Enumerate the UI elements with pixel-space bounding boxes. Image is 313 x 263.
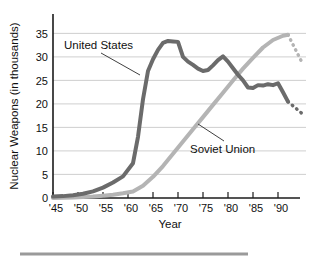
gridlines bbox=[53, 33, 306, 174]
xtick-label-1975: '75 bbox=[199, 202, 213, 214]
ytick-label-10: 10 bbox=[36, 145, 48, 157]
united-states-line bbox=[53, 41, 288, 197]
xtick-label-1950: '50 bbox=[74, 202, 88, 214]
ytick-label-35: 35 bbox=[36, 28, 48, 40]
xtick-label-1990: '90 bbox=[274, 202, 288, 214]
xtick-label-1960: '60 bbox=[124, 202, 138, 214]
xtick-label-1970: '70 bbox=[174, 202, 188, 214]
ytick-label-15: 15 bbox=[36, 122, 48, 134]
series-united-states bbox=[53, 41, 303, 197]
ytick-label-25: 25 bbox=[36, 75, 48, 87]
ytick-label-5: 5 bbox=[42, 169, 48, 181]
ytick-label-20: 20 bbox=[36, 98, 48, 110]
soviet-union-dotted-extension bbox=[288, 35, 303, 65]
united-states-label: United States bbox=[64, 39, 133, 51]
annotation-soviet-union: Soviet Union bbox=[190, 124, 255, 155]
xtick-label-1945: '45 bbox=[49, 202, 63, 214]
series-soviet-union bbox=[53, 35, 303, 198]
ytick-label-0: 0 bbox=[42, 192, 48, 204]
y-axis-tick-labels: 35 30 25 20 15 10 5 0 bbox=[36, 28, 48, 205]
soviet-union-line bbox=[53, 35, 288, 198]
nuclear-weapons-line-chart: 35 30 25 20 15 10 5 0 '45 '50 '55 '60 '6… bbox=[0, 0, 313, 263]
y-axis-title: Nuclear Weapons (in thousands) bbox=[8, 22, 20, 189]
x-axis-tick-labels: '45 '50 '55 '60 '65 '70 '75 '80 '85 '90 bbox=[49, 202, 288, 214]
chart-canvas: 35 30 25 20 15 10 5 0 '45 '50 '55 '60 '6… bbox=[0, 0, 313, 263]
soviet-union-leader-line bbox=[198, 124, 224, 141]
xtick-label-1985: '85 bbox=[249, 202, 263, 214]
xtick-label-1955: '55 bbox=[99, 202, 113, 214]
xtick-label-1980: '80 bbox=[224, 202, 238, 214]
united-states-leader-line bbox=[101, 53, 140, 75]
x-axis-title: Year bbox=[158, 218, 181, 230]
soviet-union-label: Soviet Union bbox=[190, 143, 255, 155]
xtick-label-1965: '65 bbox=[149, 202, 163, 214]
ytick-label-30: 30 bbox=[36, 51, 48, 63]
